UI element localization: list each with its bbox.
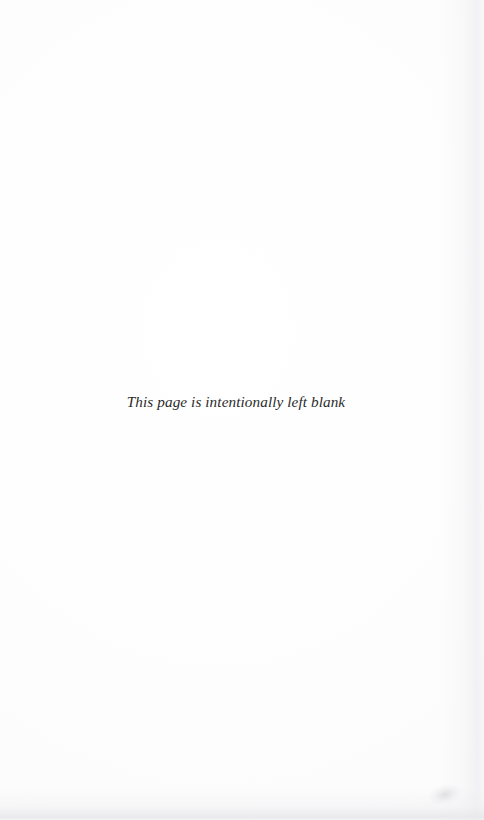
corner-smudge-artifact — [425, 777, 468, 811]
intentionally-left-blank-notice: This page is intentionally left blank — [0, 392, 472, 411]
scanned-page: This page is intentionally left blank — [0, 0, 484, 820]
bottom-edge-shading-artifact — [0, 786, 484, 820]
